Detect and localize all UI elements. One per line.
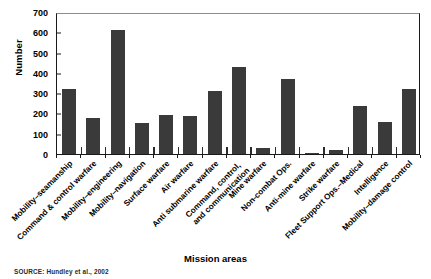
y-tick-label: 700 bbox=[22, 8, 48, 18]
y-tick-mark bbox=[56, 33, 61, 34]
y-tick-label: 200 bbox=[22, 109, 48, 119]
y-tick-label: 600 bbox=[22, 28, 48, 38]
y-tick-mark bbox=[56, 94, 61, 95]
source-note: SOURCE: Hundley et al., 2002 bbox=[14, 268, 109, 275]
y-tick-mark bbox=[56, 114, 61, 115]
y-tick-mark bbox=[56, 134, 61, 135]
y-tick-label: 300 bbox=[22, 89, 48, 99]
x-category-label: Command, control,and communication bbox=[184, 159, 252, 227]
y-tick-mark bbox=[56, 53, 61, 54]
x-axis-title: Mission areas bbox=[0, 253, 431, 264]
bar-chart-figure: Number 0100200300400500600700 Mobility–s… bbox=[0, 0, 431, 279]
y-axis-ticks: 0100200300400500600700 bbox=[56, 13, 420, 155]
x-axis-category-labels: Mobility–seamanshipCommand & control war… bbox=[0, 155, 431, 255]
y-tick-label: 500 bbox=[22, 49, 48, 59]
y-tick-label: 100 bbox=[22, 130, 48, 140]
y-tick-mark bbox=[56, 73, 61, 74]
y-tick-label: 400 bbox=[22, 69, 48, 79]
